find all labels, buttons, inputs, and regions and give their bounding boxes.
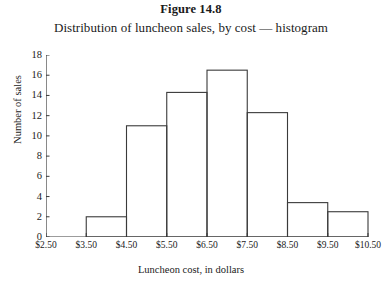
y-axis-tick-label: 18 xyxy=(32,50,43,61)
histogram-plot xyxy=(46,55,376,237)
histogram-bar xyxy=(127,126,167,237)
x-axis-tick-label: $3.50 xyxy=(76,241,97,251)
y-axis-tick-label: 12 xyxy=(32,110,43,121)
y-axis-title: Number of sales xyxy=(12,55,23,165)
histogram-bar xyxy=(86,217,126,237)
x-axis-tick-label: $9.50 xyxy=(317,241,338,251)
y-axis-tick-labels: 024681012141618 xyxy=(22,55,42,237)
x-axis-title: Luncheon cost, in dollars xyxy=(0,264,382,275)
y-axis-tick-label: 8 xyxy=(37,151,42,162)
y-axis-tick-label: 16 xyxy=(32,70,43,81)
y-axis-tick-label: 14 xyxy=(32,90,43,101)
x-axis-tick-label: $8.50 xyxy=(277,241,298,251)
x-axis-tick-label: $4.50 xyxy=(116,241,137,251)
y-axis-tick-label: 4 xyxy=(37,191,42,202)
figure-container: Figure 14.8 Distribution of luncheon sal… xyxy=(0,0,382,287)
y-axis-tick-label: 10 xyxy=(32,131,43,142)
x-axis-tick-label: $7.50 xyxy=(237,241,258,251)
histogram-bar xyxy=(288,203,328,237)
x-axis-tick-labels: $2.50$3.50$4.50$5.50$6.50$7.50$8.50$9.50… xyxy=(0,241,382,257)
figure-number: Figure 14.8 xyxy=(0,2,382,17)
x-axis-tick-label: $6.50 xyxy=(196,241,217,251)
histogram-bar xyxy=(247,113,287,237)
y-axis-tick-label: 6 xyxy=(37,171,42,182)
x-axis-tick-label: $2.50 xyxy=(35,241,56,251)
y-axis-tick-label: 2 xyxy=(37,212,42,223)
histogram-bar xyxy=(167,92,207,237)
figure-caption: Distribution of luncheon sales, by cost … xyxy=(0,20,382,36)
histogram-bar xyxy=(207,70,247,237)
histogram-bar xyxy=(328,212,368,237)
plot-area xyxy=(46,55,376,237)
x-axis-tick-label: $10.50 xyxy=(355,241,381,251)
x-axis-tick-label: $5.50 xyxy=(156,241,177,251)
